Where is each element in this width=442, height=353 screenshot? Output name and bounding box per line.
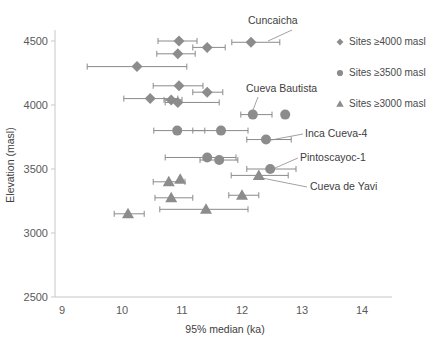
data-point-circle [280,110,290,120]
x-axis-tick-label: 10 [116,304,128,316]
data-point-diamond [246,37,257,48]
legend-marker-triangle [336,100,343,107]
x-axis-tick-label: 14 [356,304,368,316]
annotation-label: Cuncaicha [248,14,298,26]
data-point-circle [216,126,226,136]
legend-marker-diamond [337,39,344,46]
annotation-label: Pintoscayoc-1 [300,151,366,163]
legend-label: Sites ≥4000 masl [349,36,426,47]
annotation: Cueva Bautista [246,82,317,110]
annotation: Pintoscayoc-1 [275,151,366,168]
data-point-circle [265,164,275,174]
y-axis-tick-label: 2500 [24,291,48,303]
data-point-triangle [165,192,177,203]
legend-marker-circle [337,70,343,76]
data-point-diamond [132,61,143,72]
data-point-triangle [236,189,248,200]
annotation: Inca Cueva-4 [271,127,368,140]
legend-label: Sites ≥3000 masl [349,98,426,109]
data-point-diamond [202,42,213,53]
y-axis-tick-label: 3000 [24,227,48,239]
series-diamond [87,36,280,108]
y-axis-tick-label: 4000 [24,99,48,111]
legend: Sites ≥4000 maslSites ≥3500 maslSites ≥3… [336,36,425,109]
data-point-diamond [145,93,156,104]
series-circle [154,110,296,174]
annotation-label: Inca Cueva-4 [305,127,368,139]
annotation-label: Cueva Bautista [246,82,317,94]
data-point-triangle [122,208,134,219]
series-triangle [114,169,288,218]
chart-container: 250030003500400045009101112131495% media… [0,0,442,353]
data-point-diamond [174,36,185,47]
x-axis-tick-label: 9 [59,304,65,316]
data-point-diamond [172,48,183,59]
data-point-diamond [174,80,185,91]
x-axis-tick-label: 11 [176,304,187,316]
scatter-plot: 250030003500400045009101112131495% media… [0,0,442,353]
y-axis-tick-label: 3500 [24,163,48,175]
data-point-circle [172,126,182,136]
y-axis-tick-label: 4500 [24,35,48,47]
data-point-circle [248,110,258,120]
data-point-triangle [200,203,212,214]
data-point-circle [202,152,212,162]
x-axis-tick-label: 12 [236,304,248,316]
data-point-triangle [163,176,175,187]
data-point-circle [261,135,271,145]
x-axis-title: 95% median (ka) [185,323,264,335]
y-axis-title: Elevation (masl) [4,127,16,202]
x-axis-tick-label: 13 [296,304,308,316]
annotation-label: Cueva de Yavi [310,180,377,192]
annotation: Cueva de Yavi [262,178,377,192]
annotation: Cuncaicha [248,14,298,41]
data-point-circle [214,155,224,165]
legend-label: Sites ≥3500 masl [349,67,426,78]
